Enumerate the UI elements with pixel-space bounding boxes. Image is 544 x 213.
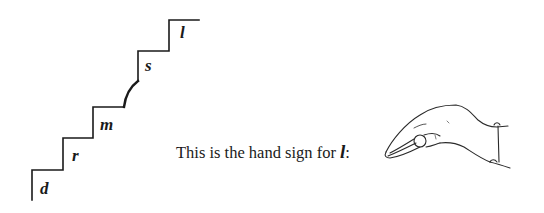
hand-sign-l-icon	[385, 105, 510, 168]
step-label-s: s	[145, 57, 152, 74]
curved-step	[124, 81, 138, 107]
step-label-d: d	[40, 180, 49, 197]
caption-colon: :	[345, 143, 350, 162]
step-label-m: m	[100, 116, 113, 133]
step-label-r: r	[72, 147, 79, 164]
staircase-lines	[32, 20, 199, 200]
hand-sign-caption: This is the hand sign for l:	[176, 142, 350, 163]
step-label-l: l	[180, 24, 185, 41]
staircase-diagram	[0, 0, 544, 213]
caption-text: This is the hand sign for	[176, 143, 336, 162]
